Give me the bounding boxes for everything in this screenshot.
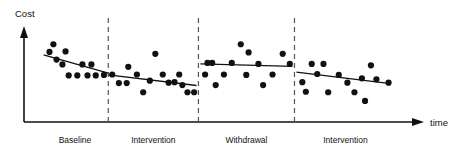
trend-lines bbox=[44, 55, 391, 86]
data-point bbox=[260, 82, 266, 88]
data-point bbox=[309, 61, 315, 67]
phase-labels: BaselineInterventionWithdrawalInterventi… bbox=[59, 135, 368, 145]
data-point bbox=[359, 75, 365, 81]
data-point bbox=[255, 61, 261, 67]
data-point bbox=[373, 76, 379, 82]
phase-label-intervention-1: Intervention bbox=[131, 135, 176, 145]
data-point bbox=[59, 61, 65, 67]
x-axis bbox=[24, 118, 424, 126]
data-point bbox=[53, 57, 59, 63]
data-point bbox=[213, 82, 219, 88]
x-axis-arrowhead bbox=[412, 118, 424, 126]
data-point bbox=[93, 72, 99, 78]
data-point bbox=[320, 61, 326, 67]
data-point bbox=[287, 61, 293, 67]
data-point bbox=[325, 89, 331, 95]
data-point bbox=[46, 49, 52, 55]
data-point bbox=[351, 89, 357, 95]
data-point bbox=[179, 82, 185, 88]
data-point bbox=[176, 71, 182, 77]
phase-dividers bbox=[108, 18, 294, 122]
data-point bbox=[243, 72, 249, 78]
data-point bbox=[66, 72, 72, 78]
trend-line-baseline bbox=[44, 55, 109, 73]
y-axis bbox=[20, 26, 28, 122]
data-point bbox=[88, 61, 94, 67]
data-point bbox=[109, 71, 115, 77]
data-point bbox=[79, 61, 85, 67]
data-point bbox=[344, 80, 350, 86]
data-point bbox=[171, 79, 177, 85]
phase-label-baseline: Baseline bbox=[59, 135, 92, 145]
data-point bbox=[74, 72, 80, 78]
data-point bbox=[147, 78, 153, 84]
data-point bbox=[269, 71, 275, 77]
data-point bbox=[101, 72, 107, 78]
data-point bbox=[385, 80, 391, 86]
data-point bbox=[125, 64, 131, 70]
data-point bbox=[160, 71, 166, 77]
data-point bbox=[303, 89, 309, 95]
y-axis-arrowhead bbox=[20, 26, 28, 38]
data-point bbox=[152, 51, 158, 57]
data-point bbox=[314, 71, 320, 77]
data-point bbox=[62, 48, 68, 54]
data-point bbox=[116, 80, 122, 86]
single-case-design-chart: Cost time BaselineInterventionWithdrawal… bbox=[0, 0, 464, 154]
data-point bbox=[221, 71, 227, 77]
data-point bbox=[140, 89, 146, 95]
data-point bbox=[280, 51, 286, 57]
data-point bbox=[166, 80, 172, 86]
x-axis-label: time bbox=[430, 117, 448, 128]
data-point bbox=[362, 98, 368, 104]
chart-canvas: Cost time BaselineInterventionWithdrawal… bbox=[0, 0, 464, 154]
data-point bbox=[50, 41, 56, 47]
y-axis-label: Cost bbox=[15, 8, 35, 19]
data-point bbox=[368, 62, 374, 68]
data-point bbox=[209, 60, 215, 66]
data-point bbox=[229, 60, 235, 66]
data-point bbox=[191, 89, 197, 95]
phase-label-intervention-2: Intervention bbox=[323, 135, 368, 145]
data-point bbox=[202, 71, 208, 77]
data-point bbox=[336, 72, 342, 78]
data-point bbox=[124, 80, 130, 86]
data-point bbox=[238, 41, 244, 47]
data-point bbox=[299, 79, 305, 85]
data-point bbox=[184, 89, 190, 95]
data-point bbox=[134, 71, 140, 77]
data-point bbox=[246, 49, 252, 55]
data-point bbox=[84, 72, 90, 78]
phase-label-withdrawal: Withdrawal bbox=[225, 135, 267, 145]
data-points bbox=[46, 41, 391, 104]
